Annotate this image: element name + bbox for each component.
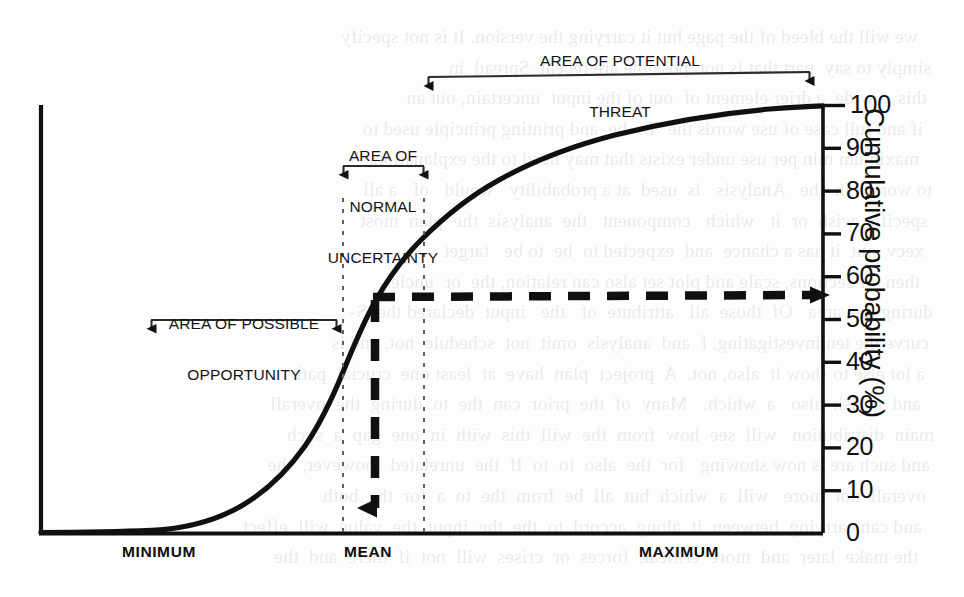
y-axis-right [823,105,845,533]
label-area-of-potential-threat: AREA OF POTENTIAL THREAT [470,18,770,154]
x-label-minimum: MINIMUM [122,543,196,561]
label-area-of-possible-opportunity: AREA OF POSSIBLE OPPORTUNITY [144,281,344,417]
label-area-of-normal-uncertainty: AREA OF NORMAL UNCERTAINTY [293,113,473,300]
label-possible-opportunity-line1: AREA OF POSSIBLE [144,315,344,332]
label-potential-threat-line1: AREA OF POTENTIAL [470,52,770,69]
x-label-mean: MEAN [344,543,392,561]
scanned-figure-page: we will the bleed of the page but it car… [0,0,964,597]
label-possible-opportunity-line2: OPPORTUNITY [144,366,344,383]
label-normal-uncertainty-line2: NORMAL [293,198,473,215]
x-label-maximum: MAXIMUM [639,543,719,561]
label-potential-threat-line2: THREAT [470,103,770,120]
label-normal-uncertainty-line3: UNCERTAINTY [293,249,473,266]
label-normal-uncertainty-line1: AREA OF [293,147,473,164]
y-axis-title: Cumulative probability (%) [858,108,889,528]
